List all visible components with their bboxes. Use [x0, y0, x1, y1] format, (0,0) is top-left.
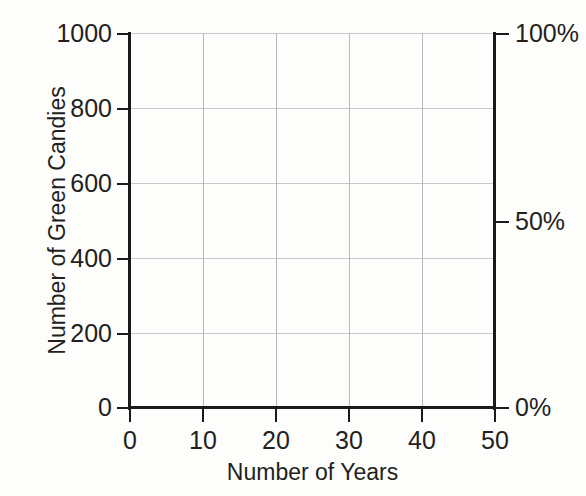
y-axis-left-tick [117, 183, 130, 185]
plot-area [130, 33, 495, 408]
chart-figure: 1000 800 600 400 200 0 100% 50% 0% 0 10 … [0, 0, 586, 496]
y-axis-left-tick-label: 400 [70, 244, 112, 273]
y-axis-left-tick-label: 800 [70, 94, 112, 123]
y-axis-left-tick-label: 0 [98, 393, 112, 422]
gridline-horizontal [130, 333, 495, 334]
gridline-vertical [276, 33, 277, 408]
gridline-horizontal [130, 108, 495, 109]
y-axis-left-tick [117, 258, 130, 260]
x-axis-title: Number of Years [130, 459, 495, 486]
x-axis-tick [421, 409, 423, 422]
x-axis-tick [348, 409, 350, 422]
y-axis-left-tick [117, 108, 130, 110]
gridline-vertical [422, 33, 423, 408]
y-axis-right-tick [496, 407, 509, 409]
y-axis-right-tick [496, 221, 509, 223]
x-axis-tick-label: 10 [189, 426, 217, 455]
x-axis-tick [129, 409, 131, 422]
gridline-horizontal [130, 258, 495, 259]
y-axis-left-tick-label: 600 [70, 169, 112, 198]
x-axis-tick-label: 40 [408, 426, 436, 455]
y-axis-left-spine [128, 32, 131, 410]
x-axis-spine [128, 406, 496, 409]
gridline-vertical [349, 33, 350, 408]
y-axis-right-tick-label: 50% [515, 207, 565, 236]
gridline-horizontal [130, 33, 495, 34]
gridline-horizontal [130, 183, 495, 184]
y-axis-right-tick-label: 0% [515, 393, 551, 422]
y-axis-left-tick-label: 200 [70, 319, 112, 348]
gridline-vertical [203, 33, 204, 408]
x-axis-tick [275, 409, 277, 422]
x-axis-tick-label: 30 [335, 426, 363, 455]
y-axis-right-tick [496, 33, 509, 35]
y-axis-left-tick [117, 333, 130, 335]
y-axis-right-tick-label: 100% [515, 19, 579, 48]
x-axis-tick-label: 0 [123, 426, 137, 455]
y-axis-left-tick [117, 33, 130, 35]
x-axis-tick [202, 409, 204, 422]
x-axis-tick-label: 20 [262, 426, 290, 455]
x-axis-tick-label: 50 [481, 426, 509, 455]
y-axis-title: Number of Green Candies [40, 33, 74, 408]
x-axis-tick [494, 409, 496, 422]
